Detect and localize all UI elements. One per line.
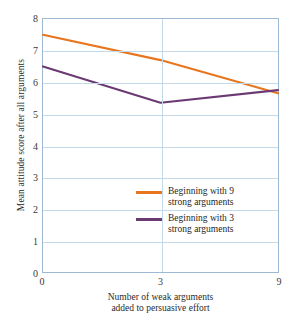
x-axis-tick-label: 3 (158, 276, 163, 287)
legend-label-series-0-line-2: strong arguments (168, 197, 234, 208)
y-axis-tick-label: 2 (22, 204, 38, 215)
y-axis-tick-label: 7 (22, 44, 38, 55)
legend-label-series-1-line-2: strong arguments (168, 224, 234, 235)
series-line-1 (43, 66, 278, 102)
y-axis-tick-label: 3 (22, 172, 38, 183)
y-axis-tick-label: 6 (22, 76, 38, 87)
horizontal-gridline (43, 51, 278, 52)
horizontal-gridline (43, 115, 278, 116)
y-axis-tick-label: 8 (22, 13, 38, 24)
chart-legend: Beginning with 9 strong arguments Beginn… (136, 186, 268, 240)
legend-label-series-0-line-1: Beginning with 9 (168, 186, 234, 197)
chart-figure: Mean attitude score after all arguments … (0, 0, 299, 320)
legend-item-series-1: Beginning with 3 strong arguments (136, 213, 268, 234)
x-axis-tick-label: 0 (40, 276, 45, 287)
y-axis-tick-label: 5 (22, 108, 38, 119)
x-axis-title-line-2: added to persuasive effort (42, 303, 279, 314)
x-axis-title: Number of weak arguments added to persua… (42, 292, 279, 314)
y-axis-tick-label: 4 (22, 140, 38, 151)
legend-label-series-1: Beginning with 3 strong arguments (168, 213, 234, 234)
legend-item-series-0: Beginning with 9 strong arguments (136, 186, 268, 207)
horizontal-gridline (43, 83, 278, 84)
series-line-0 (43, 35, 278, 94)
y-axis-tick-labels: 012345678 (20, 0, 38, 320)
x-axis-title-line-1: Number of weak arguments (42, 292, 279, 303)
y-axis-tick-label: 0 (22, 268, 38, 279)
legend-swatch-series-0 (136, 191, 162, 194)
horizontal-gridline (43, 242, 278, 243)
legend-swatch-series-1 (136, 218, 162, 221)
x-axis-tick-label: 9 (277, 276, 282, 287)
y-axis-tick-label: 1 (22, 236, 38, 247)
legend-label-series-0: Beginning with 9 strong arguments (168, 186, 234, 207)
horizontal-gridline (43, 178, 278, 179)
legend-label-series-1-line-1: Beginning with 3 (168, 213, 234, 224)
horizontal-gridline (43, 147, 278, 148)
